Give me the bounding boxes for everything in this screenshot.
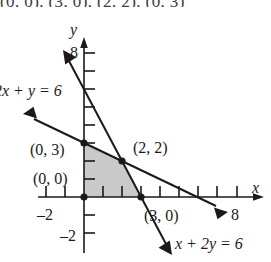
vertex-label-3-0: (3, 0)	[144, 208, 179, 224]
y-axis-arrowhead	[80, 37, 88, 48]
vertex-label-0-0: (0, 0)	[33, 171, 68, 187]
graph-figure: (0, 0), (3, 0), (2, 2), (0, 3)	[0, 0, 271, 262]
line-x-plus-2y-6-arrow-upleft	[23, 107, 37, 119]
equation-label-x-plus-2y-6: x + 2y = 6	[175, 236, 243, 252]
x-tick-label-8: 8	[231, 207, 239, 223]
vertex-label-0-3: (0, 3)	[30, 142, 65, 158]
y-tick-label-8: 8	[70, 45, 78, 61]
vertex-dot-0-3	[80, 139, 87, 146]
x-axis-label: x	[252, 180, 259, 196]
vertex-dot-3-0	[137, 193, 144, 200]
y-tick-label-minus-2: –2	[60, 228, 76, 244]
vertex-dot-2-2	[118, 157, 125, 164]
x-tick-label-minus-2: –2	[37, 207, 53, 223]
equation-label-2x-plus-y-6: 2x + y = 6	[0, 83, 62, 99]
vertex-label-2-2: (2, 2)	[133, 140, 168, 156]
line-x-plus-2y-6-arrow-downright	[214, 208, 228, 220]
y-axis-label: y	[70, 22, 77, 38]
vertex-dot-0-0	[80, 193, 87, 200]
